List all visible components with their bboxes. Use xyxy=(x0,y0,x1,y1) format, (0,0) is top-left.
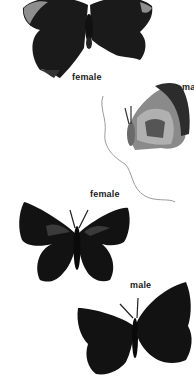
butterfly-middle-female-illustration xyxy=(14,196,134,288)
butterfly-top-female-illustration xyxy=(10,0,155,80)
butterfly-plate: female ma female male xyxy=(0,0,194,377)
label-male-side: ma xyxy=(182,82,194,92)
butterfly-bottom-male-illustration xyxy=(74,278,194,377)
